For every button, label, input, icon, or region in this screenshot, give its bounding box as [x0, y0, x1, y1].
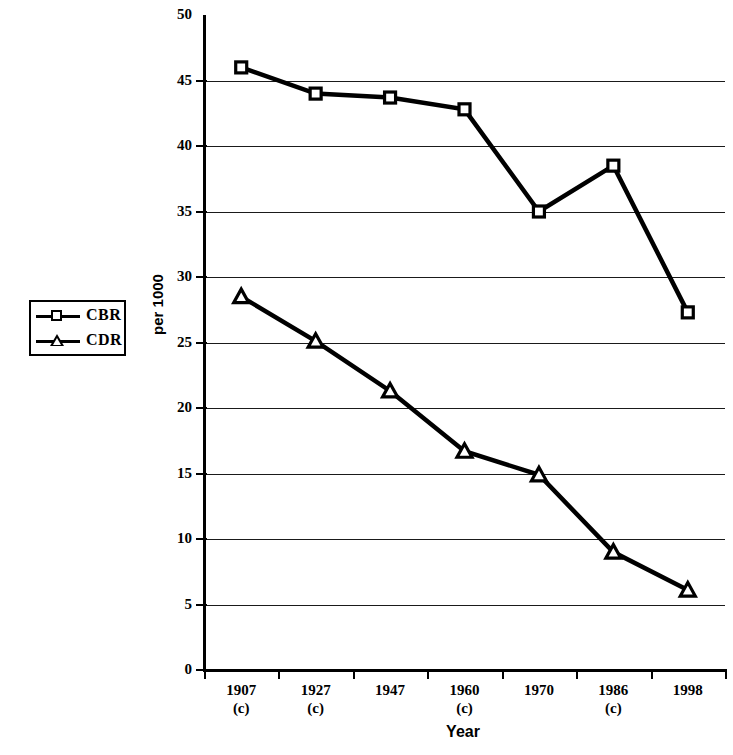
square-marker-icon: [385, 92, 396, 103]
square-marker-icon: [310, 88, 321, 99]
square-marker-icon: [608, 160, 619, 171]
triangle-marker-inner-icon: [53, 338, 61, 345]
legend-label-cbr: CBR: [86, 306, 121, 324]
legend: CBR CDR: [29, 300, 126, 356]
legend-item-cbr: CBR: [34, 305, 126, 327]
square-marker-icon: [682, 307, 693, 318]
square-marker-icon: [459, 104, 470, 115]
square-marker-icon: [533, 206, 544, 217]
y-axis-title: per 1000: [149, 260, 166, 350]
square-marker-icon: [51, 310, 62, 321]
series-layer: [0, 0, 733, 755]
legend-label-cdr: CDR: [86, 331, 122, 349]
triangle-marker-icon: [680, 583, 695, 597]
triangle-marker-icon: [234, 289, 249, 303]
square-marker-icon: [236, 62, 247, 73]
legend-item-cdr: CDR: [34, 330, 126, 352]
line-chart: 05101520253035404550 1907(c)1927(c)19471…: [0, 0, 733, 755]
x-axis-title: Year: [418, 723, 508, 741]
triangle-marker-icon: [531, 467, 546, 481]
